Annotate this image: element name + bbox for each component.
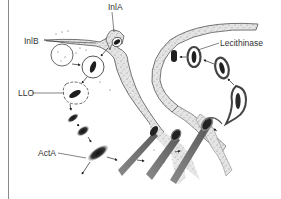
vacuole-lysing-llo <box>63 82 88 104</box>
label-lecithinase: Lecithinase <box>220 39 263 48</box>
label-acta: ActA <box>38 149 56 158</box>
released-bacterium <box>171 50 177 62</box>
label-inla: InlA <box>108 3 123 12</box>
vacuole-empty <box>51 44 73 66</box>
infection-cycle-diagram <box>0 0 281 199</box>
label-inlb: InlB <box>24 37 39 46</box>
vacuole-with-bacterium <box>82 56 104 78</box>
label-llo: LLO <box>18 89 34 98</box>
